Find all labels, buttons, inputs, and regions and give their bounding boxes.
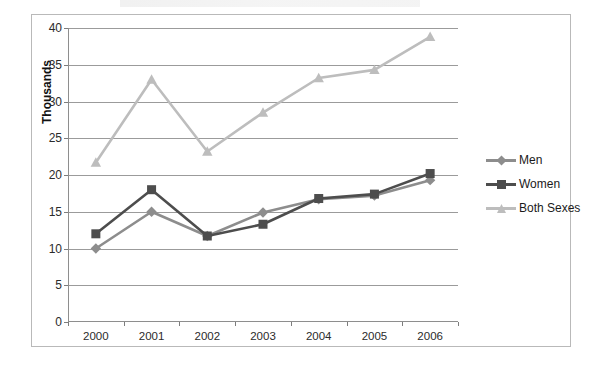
y-tick-label: 35: [49, 58, 62, 72]
data-point-marker: [91, 229, 100, 238]
data-point-marker: [314, 194, 323, 203]
data-point-marker: [146, 74, 156, 83]
series-line: [96, 37, 430, 163]
x-tick-mark: [124, 322, 125, 326]
legend-item-men[interactable]: Men: [486, 148, 590, 172]
data-point-marker: [425, 32, 435, 41]
data-point-marker: [147, 185, 156, 194]
legend-item-women[interactable]: Women: [486, 172, 590, 196]
x-tick-label: 2005: [362, 330, 388, 342]
x-tick-label: 2001: [139, 330, 165, 342]
y-tick-label: 25: [49, 131, 62, 145]
x-tick-label: 2004: [306, 330, 332, 342]
x-tick-mark: [179, 322, 180, 326]
x-tick-mark: [235, 322, 236, 326]
y-tick-label: 10: [49, 242, 62, 256]
data-point-marker: [259, 220, 268, 229]
x-tick-label: 2002: [194, 330, 220, 342]
x-tick-mark: [68, 322, 69, 326]
y-tick-label: 5: [55, 278, 62, 292]
data-series-layer: [68, 28, 458, 322]
y-tick-label: 30: [49, 95, 62, 109]
x-tick-mark: [458, 322, 459, 326]
data-point-marker: [370, 190, 379, 199]
legend-key-swatch: [486, 202, 516, 214]
legend-label: Women: [519, 177, 560, 191]
legend-marker: [497, 180, 506, 189]
legend-marker: [496, 155, 506, 165]
legend-key-swatch: [486, 178, 516, 190]
series-women: [91, 169, 434, 240]
legend-key-swatch: [486, 154, 516, 166]
data-point-marker: [203, 232, 212, 241]
x-tick-mark: [291, 322, 292, 326]
x-axis-tick-labels: 2000200120022003200420052006: [68, 330, 458, 348]
x-tick-label: 2006: [417, 330, 443, 342]
cropped-text-sliver: [120, 0, 420, 7]
x-tick-label: 2000: [83, 330, 109, 342]
legend-item-both-sexes[interactable]: Both Sexes: [486, 196, 590, 220]
y-tick-label: 0: [55, 315, 62, 329]
chart-screenshot: Thousands 0510152025303540 2000200120022…: [0, 0, 603, 370]
data-point-marker: [258, 207, 268, 217]
y-tick-label: 40: [49, 21, 62, 35]
series-men: [91, 175, 436, 254]
series-both-sexes: [91, 32, 436, 167]
y-axis-tick-labels: 0510152025303540: [28, 28, 62, 322]
data-point-marker: [426, 169, 435, 178]
legend-label: Both Sexes: [519, 201, 580, 215]
y-tick-label: 15: [49, 205, 62, 219]
x-tick-mark: [347, 322, 348, 326]
x-tick-mark: [402, 322, 403, 326]
data-point-marker: [258, 107, 268, 116]
chart-legend: MenWomenBoth Sexes: [486, 148, 590, 220]
plot-area: [68, 28, 458, 322]
y-tick-label: 20: [49, 168, 62, 182]
legend-label: Men: [519, 153, 542, 167]
x-tick-label: 2003: [250, 330, 276, 342]
